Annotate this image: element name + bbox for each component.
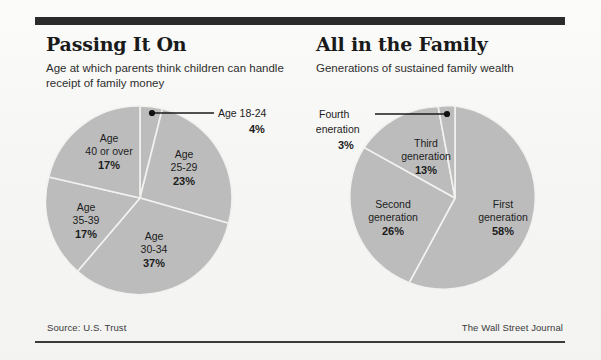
pie-chart-ages: Age 40 or over 17% Age 35-39 17% Age 25-… — [46, 105, 311, 305]
slice-label-third-generation-line2: generation — [401, 150, 451, 162]
pie-chart-generations-svg: Fourth generation 3% Third generation 13… — [316, 105, 581, 305]
slice-label-second-generation-line1: Second — [375, 198, 411, 210]
callout-label-fourth-generation-line1: Fourth — [319, 108, 350, 120]
slice-label-age-25-29-line2: 25-29 — [171, 161, 198, 173]
slice-label-age-40-or-over-line2: 40 or over — [85, 145, 133, 157]
brand-note: The Wall Street Journal — [462, 322, 563, 333]
slice-label-first-generation-line1: First — [493, 198, 513, 210]
infographic-page: Passing It On Age at which parents think… — [0, 0, 601, 360]
pie-chart-generations: Fourth generation 3% Third generation 13… — [316, 105, 581, 305]
slice-label-age-35-39-line1: Age — [77, 201, 96, 213]
panel-title: Passing It On — [46, 33, 311, 55]
slice-label-third-generation-line1: Third — [414, 137, 438, 149]
slice-label-second-generation-line2: generation — [368, 211, 418, 223]
slice-label-second-generation-value: 26% — [382, 225, 404, 237]
slice-label-third-generation-value: 13% — [415, 164, 437, 176]
slice-label-age-25-29-line1: Age — [175, 148, 194, 160]
panel-subtitle: Age at which parents think children can … — [46, 61, 296, 91]
slice-label-age-30-34-value: 37% — [143, 257, 165, 269]
slice-label-age-25-29-value: 23% — [173, 175, 195, 187]
source-note: Source: U.S. Trust — [47, 322, 126, 333]
slice-label-age-40-or-over-value: 17% — [98, 159, 120, 171]
slice-label-first-generation-line2: generation — [478, 211, 528, 223]
panel-all-in-the-family: All in the Family Generations of sustain… — [316, 33, 581, 333]
panel-subtitle: Generations of sustained family wealth — [316, 61, 566, 76]
callout-label-fourth-generation-line2: generation — [316, 123, 360, 135]
panel-title: All in the Family — [316, 33, 581, 55]
slice-label-first-generation-value: 58% — [492, 225, 514, 237]
top-rule — [35, 17, 565, 25]
slice-label-age-30-34-line1: Age — [145, 230, 164, 242]
bottom-rule — [35, 341, 565, 343]
slice-label-age-30-34-line2: 30-34 — [141, 243, 168, 255]
pie-slices-ages — [46, 106, 232, 295]
callout-label-fourth-generation-value: 3% — [338, 139, 354, 151]
pie-chart-ages-svg: Age 40 or over 17% Age 35-39 17% Age 25-… — [46, 105, 311, 305]
slice-label-age-40-or-over-line1: Age — [100, 132, 119, 144]
callout-label-age-18-24-value: 4% — [249, 123, 265, 135]
panel-passing-it-on: Passing It On Age at which parents think… — [46, 33, 311, 333]
slice-label-age-35-39-line2: 35-39 — [73, 214, 100, 226]
callout-label-age-18-24-name: Age 18-24 — [218, 107, 267, 119]
slice-label-age-35-39-value: 17% — [75, 228, 97, 240]
